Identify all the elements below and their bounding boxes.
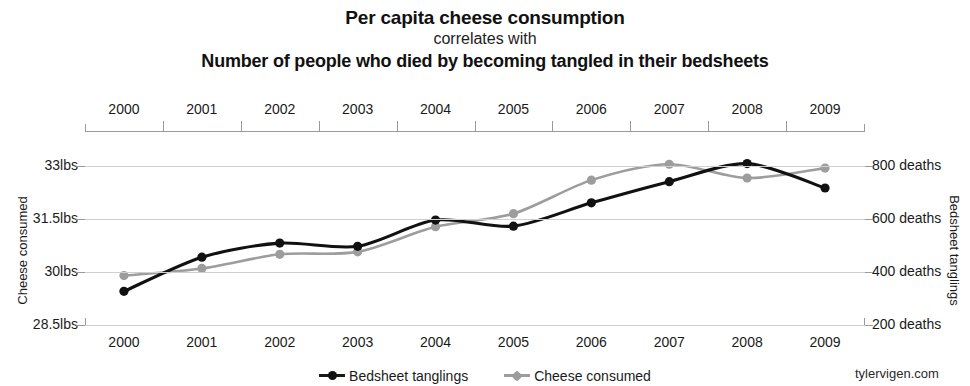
- x-axis-tick: [397, 121, 398, 132]
- y-axis-tick: [76, 166, 85, 167]
- x-axis-label: 2000: [92, 334, 156, 350]
- series-lines: [85, 133, 865, 325]
- x-axis-label: 2006: [559, 334, 623, 350]
- x-axis-tick: [552, 121, 553, 132]
- x-axis-tick: [319, 121, 320, 132]
- page-subtitle: Number of people who died by becoming ta…: [0, 49, 970, 74]
- title-connector: correlates with: [0, 29, 970, 49]
- top-axis-left-cap: [85, 124, 86, 132]
- data-point: [665, 160, 674, 169]
- gridline: [85, 272, 865, 273]
- x-axis-tick: [630, 121, 631, 132]
- y-axis-tick: [864, 219, 873, 220]
- x-axis-label: 2007: [637, 334, 701, 350]
- y-axis-left-labels: 33lbs31.5lbs30lbs28.5lbs: [0, 0, 78, 386]
- y-axis-left-label: 33lbs: [45, 157, 78, 173]
- x-axis-label: 2008: [715, 334, 779, 350]
- y-axis-left-label: 31.5lbs: [33, 210, 78, 226]
- gridline: [85, 219, 865, 220]
- x-axis-label: 2006: [559, 101, 623, 117]
- y-axis-left-title: Cheese consumed: [15, 181, 30, 321]
- x-axis-label: 2007: [637, 101, 701, 117]
- y-axis-left-label: 28.5lbs: [33, 316, 78, 332]
- x-axis-label: 2009: [793, 334, 857, 350]
- data-point: [820, 183, 829, 192]
- y-axis-tick: [76, 219, 85, 220]
- data-point: [353, 242, 362, 251]
- circle-marker-icon: [319, 370, 345, 381]
- chart-title-block: Per capita cheese consumption correlates…: [0, 6, 970, 74]
- data-point: [587, 176, 596, 185]
- x-axis-tick: [708, 121, 709, 132]
- x-axis-label: 2005: [481, 334, 545, 350]
- top-axis-right-cap: [864, 124, 865, 132]
- data-point: [587, 198, 596, 207]
- data-point: [275, 239, 284, 248]
- diamond-marker-icon: [504, 370, 530, 381]
- x-axis-label: 2001: [170, 334, 234, 350]
- y-axis-tick: [864, 166, 873, 167]
- data-point: [743, 173, 752, 182]
- page-title: Per capita cheese consumption: [0, 6, 970, 29]
- x-axis-tick: [475, 121, 476, 132]
- x-axis-label: 2008: [715, 101, 779, 117]
- x-axis-tick: [786, 121, 787, 132]
- x-axis-label: 2005: [481, 101, 545, 117]
- x-axis-tick: [241, 121, 242, 132]
- x-axis-label: 2002: [248, 334, 312, 350]
- y-axis-right-label: 200 deaths: [872, 316, 941, 332]
- y-axis-right-title: Bedsheet tanglings: [947, 176, 962, 326]
- x-axis-label: 2009: [793, 101, 857, 117]
- y-axis-right-label: 800 deaths: [872, 157, 941, 173]
- gridline: [85, 166, 865, 167]
- y-axis-tick: [76, 272, 85, 273]
- data-point: [820, 164, 829, 173]
- x-axis-label: 2003: [326, 101, 390, 117]
- y-axis-tick: [864, 272, 873, 273]
- y-axis-right-label: 600 deaths: [872, 210, 941, 226]
- legend-label: Cheese consumed: [534, 368, 651, 384]
- data-point: [509, 209, 518, 218]
- legend-item[interactable]: Cheese consumed: [504, 367, 651, 384]
- y-axis-left-label: 30lbs: [45, 263, 78, 279]
- legend-label: Bedsheet tanglings: [349, 368, 468, 384]
- x-axis-label: 2003: [326, 334, 390, 350]
- x-axis-label: 2002: [248, 101, 312, 117]
- data-point: [275, 250, 284, 259]
- data-point: [665, 177, 674, 186]
- plot-area: [85, 133, 865, 325]
- x-axis-label: 2004: [404, 334, 468, 350]
- chart-legend: Bedsheet tanglingsCheese consumed: [0, 366, 970, 384]
- x-axis-label: 2001: [170, 101, 234, 117]
- gridline: [85, 325, 865, 326]
- data-point: [119, 287, 128, 296]
- data-point: [509, 222, 518, 231]
- y-axis-tick: [76, 325, 85, 326]
- x-axis-tick: [163, 121, 164, 132]
- x-axis-label: 2000: [92, 101, 156, 117]
- credit-label: tylervigen.com: [855, 366, 939, 381]
- y-axis-tick: [864, 325, 873, 326]
- chart-container: Per capita cheese consumption correlates…: [0, 0, 970, 386]
- data-point: [197, 253, 206, 262]
- y-axis-right-label: 400 deaths: [872, 263, 941, 279]
- x-axis-label: 2004: [404, 101, 468, 117]
- legend-item[interactable]: Bedsheet tanglings: [319, 367, 468, 384]
- data-point: [431, 215, 440, 224]
